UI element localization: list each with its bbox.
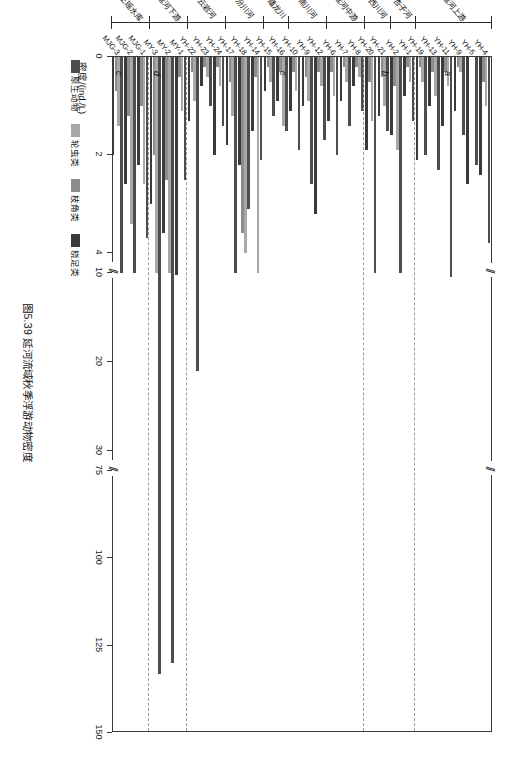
bar-group: [288, 57, 301, 731]
bar: [140, 57, 143, 106]
bar: [203, 57, 206, 67]
bar-group: [428, 57, 441, 731]
bar: [330, 57, 333, 72]
legend-swatch: [72, 179, 81, 192]
x-tick-label: 2: [94, 151, 104, 156]
bar: [307, 57, 310, 101]
legend-item: 轮虫类: [70, 124, 82, 167]
bar: [336, 57, 339, 155]
x-tick-label: 0: [94, 53, 104, 58]
bar-group: [377, 57, 390, 731]
bar: [343, 57, 346, 67]
panel-separator: [363, 57, 364, 731]
bar: [213, 57, 216, 155]
bar-group: [339, 57, 352, 731]
bar-group: [212, 57, 225, 731]
bar: [485, 57, 488, 106]
bar-group: [453, 57, 466, 731]
bar: [295, 57, 298, 91]
rotated-canvas: 延河上游杏子河西川河延河中游南川河蟠龙川汾川河云岩河延河下游王瑶水库 YH-4Y…: [0, 0, 506, 765]
x-tick: [107, 252, 112, 253]
panel-letter: b: [380, 71, 390, 76]
bar: [459, 57, 462, 72]
bar: [348, 57, 351, 126]
x-tick: [107, 732, 112, 733]
bar: [393, 57, 396, 86]
bar: [320, 57, 323, 86]
panel-separator: [148, 57, 149, 731]
x-tick-label: 125: [94, 637, 104, 652]
bar: [175, 57, 178, 275]
bar: [374, 57, 377, 273]
bar: [409, 57, 412, 82]
bar: [229, 57, 232, 82]
bar: [378, 57, 381, 116]
bar: [276, 57, 279, 101]
plot-area: // // // // abcdc: [112, 56, 492, 732]
bar: [143, 57, 146, 184]
plot-inner: [113, 57, 491, 731]
bar: [383, 57, 386, 106]
bar-group: [466, 57, 479, 731]
bar: [133, 57, 136, 273]
x-tick: [107, 470, 112, 471]
x-tick-label: 100: [94, 550, 104, 565]
bar: [127, 57, 130, 116]
bar-group: [113, 57, 124, 731]
bar-group: [478, 57, 491, 731]
bar: [130, 57, 133, 224]
bar: [488, 57, 491, 243]
bar-group: [263, 57, 276, 731]
x-axis: 02410203075100125150: [111, 56, 112, 732]
bar: [424, 57, 427, 155]
bar: [162, 57, 165, 233]
bar: [222, 57, 225, 126]
bar: [314, 57, 317, 214]
bar: [282, 57, 285, 126]
bar: [206, 57, 209, 77]
x-tick-label: 4: [94, 249, 104, 254]
bar: [450, 57, 453, 277]
bar: [267, 57, 270, 67]
bar: [466, 57, 469, 184]
bar: [462, 57, 465, 135]
axis-break-mark-bottom-2: //: [106, 460, 120, 476]
bar: [289, 57, 292, 111]
axis-break-mark-top-2: //: [484, 461, 497, 475]
bar: [352, 57, 355, 86]
legend-label: 桡足类: [70, 250, 82, 277]
bar: [434, 57, 437, 96]
bar-group: [124, 57, 137, 731]
bar-group: [301, 57, 314, 731]
bar: [345, 57, 348, 82]
bar: [200, 57, 203, 86]
bar: [279, 57, 282, 72]
bar: [475, 57, 478, 165]
bar: [416, 57, 419, 160]
x-tick: [107, 361, 112, 362]
bar: [264, 57, 267, 91]
bar: [238, 57, 241, 165]
bar: [431, 57, 434, 72]
bar: [191, 57, 194, 72]
bar: [365, 57, 368, 150]
x-tick-label: 10: [94, 267, 104, 277]
x-tick-label: 20: [94, 356, 104, 366]
bar: [124, 57, 127, 184]
bar: [219, 57, 222, 86]
bar-group: [326, 57, 339, 731]
bar: [257, 57, 260, 273]
bar: [241, 57, 244, 233]
bar: [305, 57, 308, 77]
bar: [120, 57, 123, 273]
legend-label: 枝角类: [70, 195, 82, 222]
bar: [234, 57, 237, 273]
bar: [231, 57, 234, 116]
bar-group: [314, 57, 327, 731]
bar: [181, 57, 184, 111]
bar: [390, 57, 393, 135]
bar: [251, 57, 254, 131]
bar-group: [187, 57, 200, 731]
legend-item: 枝角类: [70, 179, 82, 222]
bar: [396, 57, 399, 150]
